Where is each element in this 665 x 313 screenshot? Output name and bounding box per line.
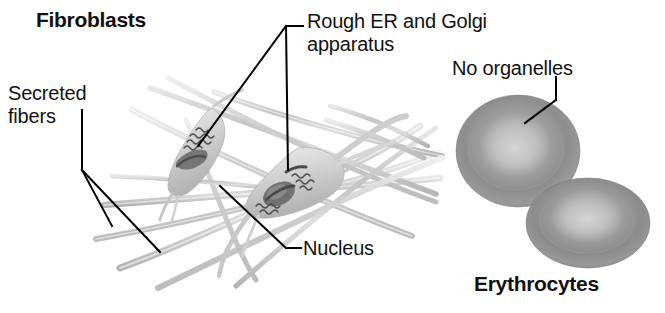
label-nucleus: Nucleus	[303, 237, 374, 260]
label-erythrocytes: Erythrocytes	[474, 272, 599, 295]
cell-comparison-figure: Fibroblasts Secreted fibers Rough ER and…	[0, 0, 665, 313]
leader-rough-er-branch-upper	[198, 26, 286, 146]
label-rough-er-and-golgi: Rough ER and Golgi apparatus	[307, 10, 487, 56]
label-no-organelles: No organelles	[452, 57, 573, 80]
leader-rough-er-branch-lower	[286, 26, 288, 170]
label-secreted-fibers: Secreted fibers	[8, 82, 86, 128]
label-fibroblasts: Fibroblasts	[36, 8, 146, 31]
erythrocyte-lower	[526, 178, 650, 268]
